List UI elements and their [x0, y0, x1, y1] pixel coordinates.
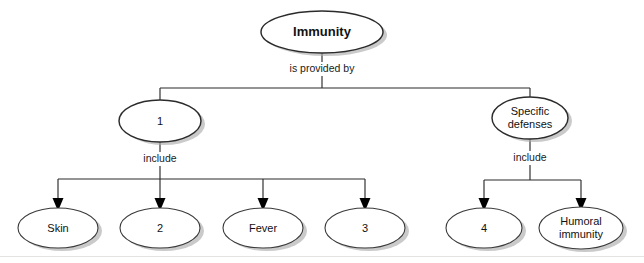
- node-specific-defenses-label-line1: Specific: [511, 105, 550, 117]
- node-immunity[interactable]: Immunity: [261, 11, 387, 56]
- node-4-label: 4: [481, 222, 487, 234]
- node-3-label: 3: [362, 222, 368, 234]
- link-label-include-right: include: [513, 151, 546, 163]
- node-specific-defenses-label-line2: defenses: [508, 118, 553, 130]
- node-2[interactable]: 2: [120, 208, 204, 251]
- node-skin[interactable]: Skin: [18, 208, 102, 251]
- node-immunity-label: Immunity: [293, 24, 352, 39]
- node-1-label: 1: [157, 115, 163, 127]
- node-specific-defenses[interactable]: Specific defenses: [492, 97, 572, 142]
- node-humoral-immunity[interactable]: Humoral immunity: [539, 207, 627, 252]
- node-skin-label: Skin: [47, 222, 68, 234]
- link-label-include-left: include: [143, 152, 176, 164]
- node-3[interactable]: 3: [325, 208, 409, 251]
- node-2-label: 2: [157, 222, 163, 234]
- node-humoral-immunity-label-line2: immunity: [559, 228, 604, 240]
- node-1[interactable]: 1: [119, 100, 205, 145]
- node-fever-label: Fever: [249, 222, 277, 234]
- concept-map-diagram: is provided by include include Immunity …: [0, 0, 644, 263]
- node-humoral-immunity-label-line1: Humoral: [560, 215, 602, 227]
- link-label-is-provided-by: is provided by: [290, 62, 356, 74]
- node-4[interactable]: 4: [446, 208, 526, 251]
- node-fever[interactable]: Fever: [223, 208, 307, 251]
- diagram-canvas: is provided by include include Immunity …: [0, 0, 644, 263]
